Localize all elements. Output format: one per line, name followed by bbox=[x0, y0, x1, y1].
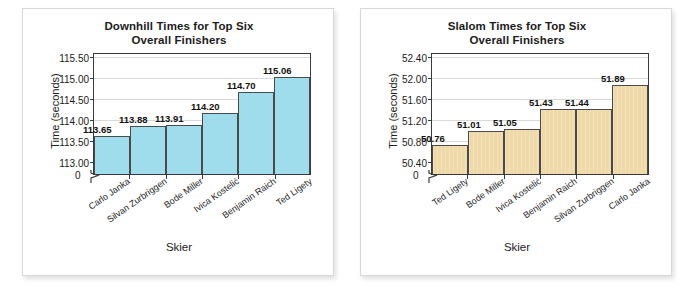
bar-value-label: 113.88 bbox=[119, 114, 148, 125]
y-axis-tick-label: 50.40 bbox=[402, 158, 427, 169]
bar-value-label: 114.20 bbox=[191, 101, 220, 112]
x-axis-label-slalom: Skier bbox=[361, 241, 673, 253]
bar-series: 50.7651.0151.0551.4351.4451.89 bbox=[432, 54, 648, 174]
x-axis-tick-mark bbox=[576, 175, 577, 179]
bar[interactable]: 115.06 bbox=[274, 77, 310, 174]
x-axis-tick-mark bbox=[238, 175, 239, 179]
y-axis-tick-label: 52.40 bbox=[402, 53, 427, 64]
x-axis-tick-labels-slalom: Ted LigetyBode MillerIvica KostelićBenja… bbox=[431, 176, 649, 236]
bar-value-label: 115.06 bbox=[263, 65, 292, 76]
bar[interactable]: 114.20 bbox=[202, 113, 238, 174]
y-axis-tick-label: 115.50 bbox=[59, 53, 89, 64]
bar-value-label: 113.65 bbox=[83, 124, 112, 135]
x-axis-tick-label: Ted Ligety bbox=[274, 176, 313, 208]
bar[interactable]: 51.43 bbox=[540, 109, 576, 174]
x-axis-tick-mark bbox=[166, 175, 167, 179]
bar-value-label: 51.43 bbox=[529, 97, 553, 108]
bar-value-label: 51.89 bbox=[601, 73, 625, 84]
bar-value-label: 51.01 bbox=[457, 119, 481, 130]
x-axis-label-downhill: Skier bbox=[23, 241, 335, 253]
x-axis-tick-mark bbox=[504, 175, 505, 179]
y-axis-tick-label: 115.00 bbox=[59, 74, 89, 85]
bar-value-label: 114.70 bbox=[227, 80, 256, 91]
y-axis-tick-label: 52.00 bbox=[402, 74, 427, 85]
y-axis-tick-label: 114.50 bbox=[59, 95, 89, 106]
plot-area-downhill: 113.00113.50114.00114.50115.00115.50113.… bbox=[93, 53, 311, 175]
bar[interactable]: 51.44 bbox=[576, 109, 612, 174]
chart-card-downhill: Downhill Times for Top Six Overall Finis… bbox=[22, 8, 334, 276]
y-axis-zero-label-downhill: 0 bbox=[75, 170, 81, 181]
chart-card-slalom: Slalom Times for Top Six Overall Finishe… bbox=[360, 8, 672, 276]
x-axis-tick-labels-downhill: Carlo JankaSilvan ZurbriggenBode MillerI… bbox=[93, 176, 311, 236]
bar[interactable]: 51.89 bbox=[612, 85, 648, 174]
chart-title-line1: Downhill Times for Top Six bbox=[23, 19, 335, 33]
y-axis-zero-label-slalom: 0 bbox=[413, 170, 419, 181]
y-axis-tick-label: 51.60 bbox=[402, 95, 427, 106]
bar[interactable]: 114.70 bbox=[238, 92, 274, 174]
y-axis-label-downhill: Time (seconds) bbox=[49, 46, 61, 176]
bar[interactable]: 51.01 bbox=[468, 131, 504, 174]
x-axis-tick-mark bbox=[613, 175, 614, 179]
bar-series: 113.65113.88113.91114.20114.70115.06 bbox=[94, 54, 310, 174]
x-axis-tick-mark bbox=[540, 175, 541, 179]
x-axis-tick-mark bbox=[467, 175, 468, 179]
y-axis-tick-label: 51.20 bbox=[402, 116, 427, 127]
plot-wrapper-downhill: Downhill Times for Top Six Overall Finis… bbox=[23, 9, 335, 277]
bar[interactable]: 51.05 bbox=[504, 129, 540, 174]
x-axis-tick-mark bbox=[202, 175, 203, 179]
plot-wrapper-slalom: Slalom Times for Top Six Overall Finishe… bbox=[361, 9, 673, 277]
y-axis-label-slalom: Time (seconds) bbox=[387, 46, 399, 176]
chart-title-line2: Overall Finishers bbox=[23, 33, 335, 47]
page-root: Downhill Times for Top Six Overall Finis… bbox=[0, 0, 683, 290]
bar[interactable]: 113.91 bbox=[166, 125, 202, 174]
y-axis-tick-label: 113.00 bbox=[59, 158, 89, 169]
bar[interactable]: 113.88 bbox=[130, 126, 166, 174]
chart-title-line2: Overall Finishers bbox=[361, 33, 673, 47]
chart-title-line1: Slalom Times for Top Six bbox=[361, 19, 673, 33]
bar-value-label: 51.44 bbox=[565, 97, 589, 108]
y-axis-tick-label: 113.50 bbox=[59, 137, 89, 148]
plot-area-slalom: 50.4050.8051.2051.6052.0052.4050.7651.01… bbox=[431, 53, 649, 175]
chart-title-slalom: Slalom Times for Top Six Overall Finishe… bbox=[361, 19, 673, 47]
bar-value-label: 50.76 bbox=[421, 133, 445, 144]
bar-value-label: 51.05 bbox=[493, 117, 517, 128]
x-axis-tick-mark bbox=[275, 175, 276, 179]
x-axis-tick-mark bbox=[129, 175, 130, 179]
chart-title-downhill: Downhill Times for Top Six Overall Finis… bbox=[23, 19, 335, 47]
bar-value-label: 113.91 bbox=[155, 113, 184, 124]
